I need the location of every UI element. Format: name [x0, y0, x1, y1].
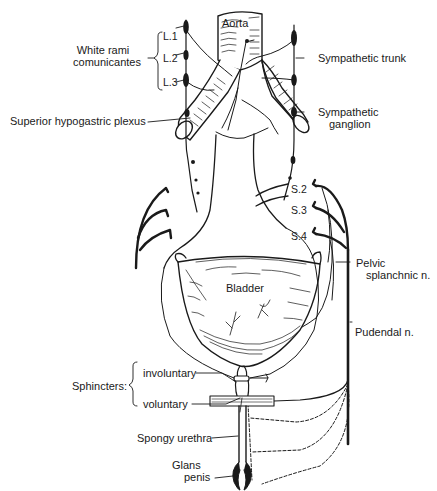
- label-voluntary: voluntary: [143, 398, 188, 410]
- left-sacral-roots: [136, 188, 171, 268]
- glans-penis: [233, 462, 252, 490]
- label-s3: S.3: [291, 204, 307, 216]
- label-glans-penis: Glans penis: [172, 459, 210, 483]
- label-pudendal: Pudendal n.: [355, 326, 414, 338]
- label-white-rami: White rami comunicantes: [62, 44, 144, 68]
- label-pelvic-splanchnic-line2: splanchnic n.: [356, 269, 430, 281]
- label-s2: S.2: [291, 183, 307, 195]
- label-bladder: Bladder: [226, 282, 264, 294]
- aorta-vessel: [172, 12, 312, 142]
- label-aorta: Aorta: [222, 17, 248, 29]
- label-l2: L.2: [163, 52, 178, 64]
- label-sympathetic-trunk: Sympathetic trunk: [318, 52, 406, 64]
- label-superior-hypogastric-plexus: Superior hypogastric plexus: [10, 115, 146, 127]
- label-s4: S.4: [291, 230, 307, 242]
- label-glans-line1: Glans: [172, 459, 210, 471]
- bladder: [175, 252, 321, 404]
- voluntary-sphincter: [210, 396, 274, 406]
- label-white-rami-line1: White rami: [62, 44, 144, 56]
- label-sphincters: Sphincters:: [72, 380, 127, 392]
- label-sympathetic-ganglion: Sympathetic ganglion: [318, 106, 379, 130]
- label-pelvic-splanchnic: Pelvic splanchnic n.: [356, 257, 430, 281]
- label-white-rami-line2: comunicantes: [62, 56, 144, 68]
- label-l3: L.3: [163, 76, 178, 88]
- label-sympathetic-ganglion-line2: ganglion: [318, 118, 379, 130]
- bladder-innervation-diagram: [0, 0, 437, 491]
- label-pelvic-splanchnic-line1: Pelvic: [356, 257, 430, 269]
- hypogastric-nerves: [164, 134, 288, 268]
- label-sympathetic-ganglion-line1: Sympathetic: [318, 106, 379, 118]
- label-spongy-urethra: Spongy urethra: [137, 432, 212, 444]
- label-glans-line2: penis: [172, 471, 210, 483]
- label-involuntary: involuntary: [143, 367, 196, 379]
- spongy-urethra: [239, 398, 246, 462]
- label-l1: L.1: [163, 30, 178, 42]
